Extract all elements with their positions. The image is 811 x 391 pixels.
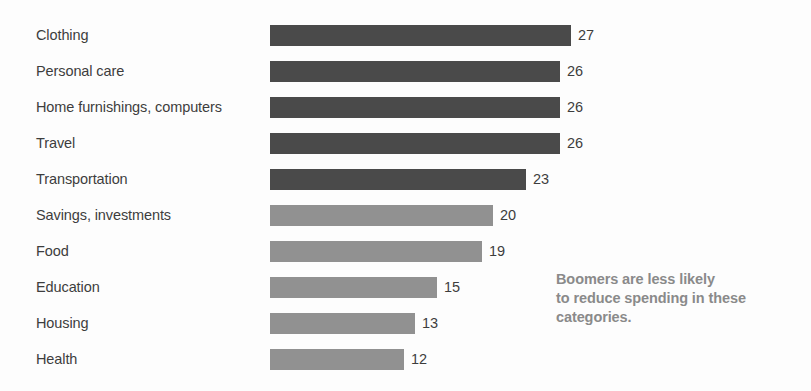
bar — [270, 205, 493, 226]
category-label: Personal care — [36, 61, 124, 82]
annotation-line: Boomers are less likely — [556, 270, 796, 289]
bar — [270, 133, 560, 154]
bar — [270, 61, 560, 82]
category-label: Housing — [36, 313, 89, 334]
bar-row: Personal care 26 — [0, 61, 811, 97]
value-label: 26 — [567, 97, 583, 118]
value-label: 26 — [567, 61, 583, 82]
value-label: 20 — [500, 205, 516, 226]
annotation-line: categories. — [556, 308, 796, 327]
bar — [270, 277, 437, 298]
value-label: 27 — [578, 25, 594, 46]
bar-row: Savings, investments 20 — [0, 205, 811, 241]
category-label: Health — [36, 349, 77, 370]
value-label: 26 — [567, 133, 583, 154]
annotation-line: to reduce spending in these — [556, 289, 796, 308]
bar — [270, 169, 526, 190]
bar — [270, 241, 482, 262]
value-label: 15 — [444, 277, 460, 298]
bar — [270, 25, 571, 46]
chart-annotation: Boomers are less likely to reduce spendi… — [556, 270, 796, 327]
category-label: Food — [36, 241, 69, 262]
value-label: 13 — [422, 313, 438, 334]
category-label: Home furnishings, computers — [36, 97, 222, 118]
bar-row: Clothing 27 — [0, 25, 811, 61]
value-label: 19 — [489, 241, 505, 262]
category-label: Travel — [36, 133, 75, 154]
bar — [270, 97, 560, 118]
bar-row: Transportation 23 — [0, 169, 811, 205]
category-label: Savings, investments — [36, 205, 171, 226]
value-label: 12 — [411, 349, 427, 370]
horizontal-bar-chart: Clothing 27 Personal care 26 Home furnis… — [0, 0, 811, 391]
bar-row: Travel 26 — [0, 133, 811, 169]
category-label: Transportation — [36, 169, 128, 190]
bar — [270, 313, 415, 334]
bar-row: Home furnishings, computers 26 — [0, 97, 811, 133]
category-label: Education — [36, 277, 100, 298]
bar — [270, 349, 404, 370]
value-label: 23 — [533, 169, 549, 190]
bar-row: Health 12 — [0, 349, 811, 385]
category-label: Clothing — [36, 25, 88, 46]
